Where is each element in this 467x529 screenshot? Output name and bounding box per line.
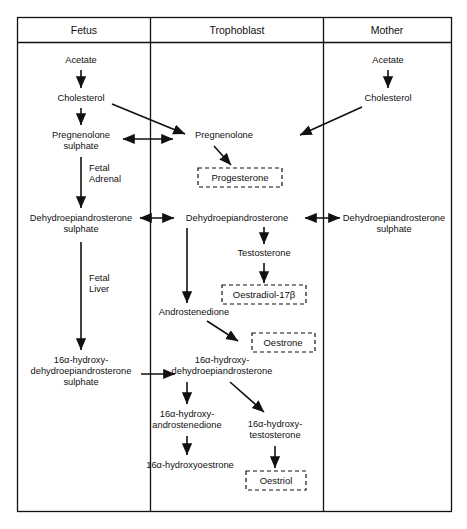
node-fetus-pregnenolone-sulphate-line2: sulphate <box>63 141 98 151</box>
node-fetus-cholesterol: Cholesterol <box>57 93 104 103</box>
node-trophoblast-16a-hydroxy-androstenedione-line1: 16α-hydroxy- <box>160 409 214 419</box>
node-mother-cholesterol: Cholesterol <box>364 93 411 103</box>
node-mother-dhea-sulphate-line2: sulphate <box>376 224 411 234</box>
trophoblast-column-content: Pregnenolone Progesterone Dehydroepiandr… <box>146 130 315 490</box>
node-fetus-dhea-sulphate-line1: Dehydroepiandrosterone <box>30 213 132 223</box>
column-header-mother: Mother <box>371 24 404 36</box>
node-trophoblast-16a-hydroxy-testosterone-line2: testosterone <box>249 430 300 440</box>
node-trophoblast-16a-hydroxyoestrone: 16α-hydroxyoestrone <box>146 460 234 470</box>
node-fetus-16a-hydroxy-dhea-sulphate-line1: 16α-hydroxy- <box>54 355 108 365</box>
node-fetus-dhea-sulphate-line2: sulphate <box>63 224 98 234</box>
pathway-diagram: Fetus Trophoblast Mother Acetate Cholest… <box>0 0 467 529</box>
fetus-column-content: Acetate Cholesterol Pregnenolone sulphat… <box>30 55 132 387</box>
diagram-frame <box>18 18 452 512</box>
node-trophoblast-pregnenolone: Pregnenolone <box>195 130 253 140</box>
label-fetal-adrenal-line2: Adrenal <box>89 174 121 184</box>
node-trophoblast-oestradiol-17beta: Oestradiol-17β <box>233 289 296 300</box>
node-fetus-pregnenolone-sulphate-line1: Pregnenolone <box>52 130 110 140</box>
column-header-fetus: Fetus <box>71 24 97 36</box>
transfer-arrows <box>112 104 362 374</box>
node-trophoblast-androstenedione: Androstenedione <box>159 307 229 317</box>
node-trophoblast-dhea: Dehydroepiandrosterone <box>186 213 288 223</box>
arrow-maternal-cholesterol-to-trophoblast-pregnenolone <box>300 107 362 135</box>
node-trophoblast-testosterone: Testosterone <box>237 248 290 258</box>
arrow-fetal-cholesterol-to-trophoblast-pregnenolone <box>112 104 185 134</box>
node-trophoblast-oestrone: Oestrone <box>263 337 302 348</box>
node-trophoblast-16a-hydroxy-testosterone-line1: 16α-hydroxy- <box>248 419 302 429</box>
arrow-oh-dhea-to-oh-testosterone <box>230 382 264 412</box>
label-fetal-liver-line1: Fetal <box>89 273 110 283</box>
pathway-svg: Fetus Trophoblast Mother Acetate Cholest… <box>0 0 467 529</box>
column-header-trophoblast: Trophoblast <box>209 24 264 36</box>
node-trophoblast-16a-hydroxy-androstenedione-line2: androstenedione <box>152 420 221 430</box>
column-headers: Fetus Trophoblast Mother <box>71 24 404 36</box>
arrow-androstenedione-to-oestrone <box>207 321 238 341</box>
node-fetus-acetate: Acetate <box>65 55 97 65</box>
node-fetus-16a-hydroxy-dhea-sulphate-line2: dehydroepiandrosterone <box>31 366 132 376</box>
node-trophoblast-progesterone: Progesterone <box>211 172 268 183</box>
node-trophoblast-oestriol: Oestriol <box>260 475 293 486</box>
node-mother-dhea-sulphate-line1: Dehydroepiandrosterone <box>343 213 445 223</box>
node-mother-acetate: Acetate <box>372 55 404 65</box>
label-fetal-liver-line2: Liver <box>89 284 109 294</box>
label-fetal-adrenal-line1: Fetal <box>89 163 110 173</box>
node-fetus-16a-hydroxy-dhea-sulphate-line3: sulphate <box>63 377 98 387</box>
node-trophoblast-16a-hydroxy-dhea-line1: 16α-hydroxy- <box>195 355 249 365</box>
arrow-pregnenolone-to-progesterone <box>214 146 231 165</box>
mother-column-content: Acetate Cholesterol Dehydroepiandrostero… <box>343 55 445 234</box>
node-trophoblast-16a-hydroxy-dhea-line2: dehydroepiandrosterone <box>172 366 273 376</box>
